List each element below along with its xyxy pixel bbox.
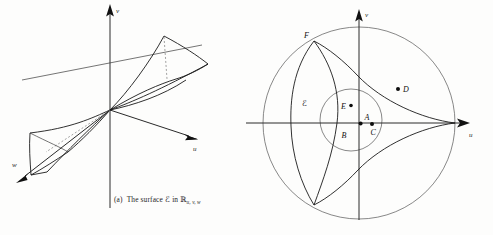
point-label-D: D (402, 85, 409, 94)
figure-b-panel: A B C D E F ℰ u v (b) The cross-section … (246, 0, 493, 235)
point-E-dot (349, 104, 353, 108)
axis-label-u-b: u (469, 131, 473, 139)
caption-a-connector: in (172, 195, 178, 204)
axis-u-figure-a (110, 110, 198, 140)
caption-a-symbol: ℰ (165, 195, 170, 204)
point-label-A: A (364, 113, 370, 122)
surface-wing-upper (110, 36, 208, 110)
axis-v-figure-b (355, 9, 363, 220)
caption-a-text: The surface (127, 195, 163, 204)
axis-v-figure-a (106, 4, 114, 208)
axis-label-u-a: u (193, 145, 197, 153)
caption-a-prefix: (a) (114, 195, 123, 204)
curve-label-E: ℰ (302, 99, 307, 108)
point-label-C: C (371, 128, 377, 137)
axis-label-w-a: w (12, 161, 17, 169)
figure-b-svg: A B C D E F ℰ u v (246, 0, 493, 235)
guide-line-upper (22, 45, 202, 80)
point-label-B: B (342, 131, 347, 140)
figure-a-panel: v u w (a) The surface ℰ in ℝu, v, w (0, 0, 246, 235)
point-label-E: E (340, 102, 346, 111)
point-label-F: F (303, 31, 309, 40)
figure-sheet: v u w (a) The surface ℰ in ℝu, v, w (0, 0, 493, 235)
inner-circle (320, 89, 382, 151)
caption-a-subscript: u, v, w (187, 199, 201, 205)
axis-label-v-b: v (365, 11, 369, 19)
caption-figure-a: (a) The surface ℰ in ℝu, v, w (114, 195, 201, 205)
point-C-dot (370, 122, 374, 126)
point-D-dot (396, 87, 400, 91)
point-A-dot (359, 121, 363, 125)
labelled-points (349, 87, 400, 126)
axis-label-v-a: v (116, 7, 120, 15)
